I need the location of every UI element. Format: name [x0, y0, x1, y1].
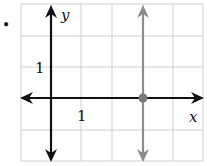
x-tick-label: 1 [77, 107, 87, 125]
y-axis-label: y [60, 6, 70, 24]
graph: • y x 1 1 [0, 0, 207, 166]
y-axis [45, 5, 57, 162]
y-tick-label: 1 [35, 59, 45, 77]
vertical-line-x3 [137, 5, 149, 162]
x-axis-label: x [189, 108, 198, 126]
grid [21, 4, 203, 161]
bullet: • [2, 17, 10, 33]
x-intercept-point [139, 94, 148, 103]
